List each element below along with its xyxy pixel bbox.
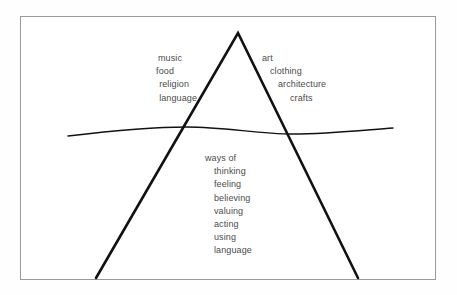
surface-labels-right: art clothing architecture crafts (262, 52, 382, 105)
label-religion: religion (92, 78, 202, 91)
label-music: music (92, 52, 202, 65)
label-believing: believing (205, 192, 325, 205)
label-thinking: thinking (205, 165, 325, 178)
label-food: food (92, 65, 202, 78)
iceberg-diagram-root: music food religion language art clothin… (0, 0, 457, 295)
label-feeling: feeling (205, 178, 325, 191)
label-using: using (205, 231, 325, 244)
label-language-surface: language (92, 92, 202, 105)
label-acting: acting (205, 218, 325, 231)
label-architecture: architecture (262, 78, 382, 91)
label-language-deep: language (205, 244, 325, 257)
label-clothing: clothing (262, 65, 382, 78)
label-valuing: valuing (205, 205, 325, 218)
label-art: art (262, 52, 382, 65)
deep-culture-labels: ways of thinking feeling believing valui… (205, 152, 325, 258)
surface-labels-left: music food religion language (92, 52, 202, 105)
label-ways-of: ways of (205, 152, 325, 165)
label-crafts: crafts (262, 92, 382, 105)
